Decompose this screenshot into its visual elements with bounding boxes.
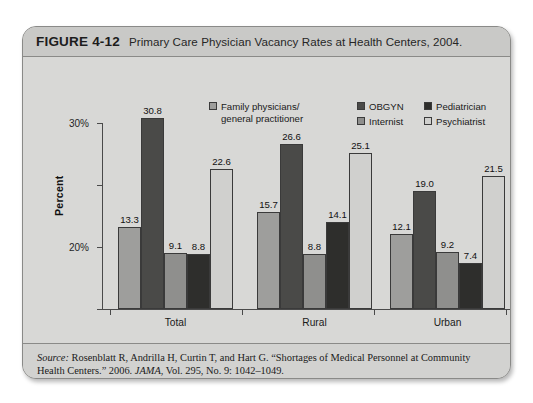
bar-column: 7.4 <box>459 123 482 309</box>
y-axis-tick: 30% <box>97 123 102 124</box>
bar-column: 21.5 <box>482 123 505 309</box>
bar-group: 12.119.09.27.421.5 <box>390 123 505 309</box>
bar[interactable] <box>141 118 164 309</box>
bar[interactable] <box>349 153 372 309</box>
source-label: Source: <box>37 352 69 363</box>
y-axis-tick: 20% <box>97 185 102 186</box>
source-text-after: , Vol. 295, No. 9: 1042–1049. <box>161 365 284 376</box>
source-note: Source: Rosenblatt R, Andrilla H, Curtin… <box>23 343 510 379</box>
bar-value-label: 22.6 <box>202 156 242 167</box>
bar[interactable] <box>257 212 280 309</box>
x-axis-tick <box>374 309 375 315</box>
bar[interactable] <box>187 254 210 309</box>
bar[interactable] <box>482 176 505 309</box>
x-axis-tick <box>110 309 111 315</box>
x-axis-tick <box>242 309 243 315</box>
bar[interactable] <box>280 144 303 309</box>
bar-value-label: 25.1 <box>341 140 381 151</box>
bar-column: 19.0 <box>413 123 436 309</box>
bar[interactable] <box>413 191 436 309</box>
x-axis-category-label: Rural <box>255 317 375 328</box>
bar[interactable] <box>118 227 141 309</box>
bar-column: 15.7 <box>257 123 280 309</box>
bar-column: 8.8 <box>187 123 210 309</box>
legend-label: Family physicians/general practitioner <box>221 101 303 124</box>
y-axis-line <box>102 123 103 309</box>
legend-item[interactable]: OBGYN <box>357 101 404 113</box>
x-axis-tick <box>506 309 507 315</box>
bar-column: 22.6 <box>210 123 233 309</box>
legend-label: Pediatrician <box>436 101 486 113</box>
page-title: Primary Care Physician Vacancy Rates at … <box>129 35 462 48</box>
figure-card: FIGURE 4-12 Primary Care Physician Vacan… <box>22 26 511 379</box>
legend-swatch-icon <box>209 102 217 110</box>
bar-group: 13.330.89.18.822.6 <box>118 123 233 309</box>
bar[interactable] <box>459 263 482 309</box>
y-axis-tick-label: 30% <box>69 118 89 129</box>
y-axis-tick: 10% <box>97 247 102 248</box>
bar[interactable] <box>390 234 413 309</box>
chart-panel: Family physicians/general practitionerOB… <box>23 58 510 343</box>
legend-swatch-icon <box>357 102 365 110</box>
bar-column: 12.1 <box>390 123 413 309</box>
bar-column: 13.3 <box>118 123 141 309</box>
plot-area: 010%20%30% 13.330.89.18.822.615.726.68.8… <box>102 123 511 309</box>
bar-value-label: 21.5 <box>474 163 512 174</box>
bar[interactable] <box>326 222 349 309</box>
legend-item[interactable]: Family physicians/general practitioner <box>209 101 303 124</box>
bar-column: 25.1 <box>349 123 372 309</box>
bar-column: 30.8 <box>141 123 164 309</box>
y-axis-tick-label: 20% <box>69 242 89 253</box>
figure-title-bar: FIGURE 4-12 Primary Care Physician Vacan… <box>23 27 510 57</box>
source-journal: JAMA <box>135 365 161 376</box>
x-axis-category-label: Total <box>116 317 236 328</box>
bar[interactable] <box>164 253 187 309</box>
legend-swatch-icon <box>424 102 432 110</box>
x-axis-line <box>102 309 511 310</box>
x-axis-category-label: Urban <box>388 317 508 328</box>
y-axis-title: Percent <box>53 175 65 216</box>
bar[interactable] <box>210 169 233 309</box>
bar-column: 9.1 <box>164 123 187 309</box>
y-axis-tick: 0 <box>97 309 102 310</box>
bar-group: 15.726.68.814.125.1 <box>257 123 372 309</box>
figure-number: FIGURE 4-12 <box>36 34 120 49</box>
bar[interactable] <box>303 254 326 309</box>
legend-label: OBGYN <box>369 101 404 113</box>
bar-column: 9.2 <box>436 123 459 309</box>
bar-value-label: 30.8 <box>133 105 173 116</box>
bar-column: 26.6 <box>280 123 303 309</box>
legend-item[interactable]: Pediatrician <box>424 101 486 113</box>
